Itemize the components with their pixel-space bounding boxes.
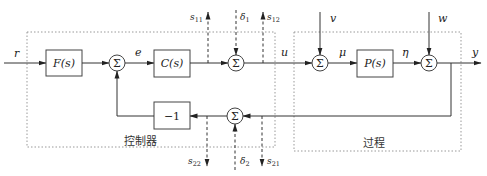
s22-label: s22 xyxy=(188,156,201,168)
sigma-symbol-4: Σ xyxy=(425,57,433,70)
block-diagram: 控制器 过程 r F(s) Σ e C(s) Σ s11 δ1 s12 u Σ … xyxy=(0,0,487,176)
measurement-noise-label: w xyxy=(438,12,448,25)
output-signal-label: y xyxy=(471,46,479,59)
process-group-label: 过程 xyxy=(363,137,385,150)
delta2-label: δ2 xyxy=(240,156,250,168)
sigma-symbol-2: Σ xyxy=(232,57,240,70)
controller-block-label: C(s) xyxy=(161,57,184,70)
control-signal-label: u xyxy=(281,46,288,59)
controller-group-label: 控制器 xyxy=(124,134,157,148)
sigma-symbol-3: Σ xyxy=(316,57,324,70)
feedback-path-arrow xyxy=(243,63,451,116)
sigma-symbol-5: Σ xyxy=(231,110,239,123)
load-disturbance-label: v xyxy=(330,12,337,25)
reference-signal-label: r xyxy=(14,47,20,60)
plant-block-label: P(s) xyxy=(363,57,386,70)
negated-feedback-arrow xyxy=(117,71,154,116)
prefilter-label: F(s) xyxy=(52,57,75,70)
s11-label: s11 xyxy=(190,12,203,24)
plant-output-label: η xyxy=(402,46,409,59)
s12-label: s12 xyxy=(267,12,280,24)
sigma-symbol-1: Σ xyxy=(113,57,121,70)
plant-input-label: μ xyxy=(339,46,346,59)
s21-label: s21 xyxy=(267,156,280,168)
negation-block-label: −1 xyxy=(164,110,180,123)
controller-group-boundary xyxy=(27,32,275,147)
delta1-label: δ1 xyxy=(240,12,250,24)
error-signal-label: e xyxy=(135,46,142,59)
